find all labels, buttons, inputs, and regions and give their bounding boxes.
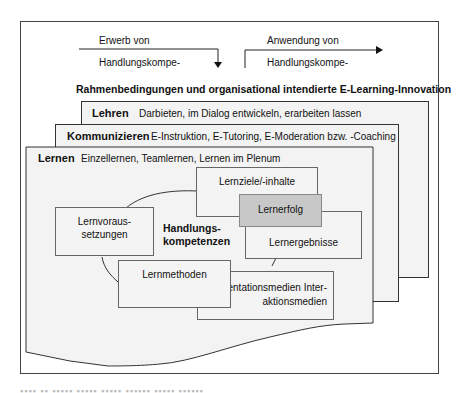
box-lernerfolg: Lernerfolg — [239, 194, 322, 227]
box-lernvoraus-line1: Lernvoraus- — [56, 215, 153, 228]
arrow-down-icon — [214, 62, 222, 68]
arrow-right-icon — [376, 46, 383, 54]
box-lernvoraus-line2: setzungen — [56, 228, 153, 241]
center-label: Handlungs- kompetenzen — [163, 222, 213, 248]
box-lernmethoden: Lernmethoden — [118, 260, 231, 308]
center-label-line1: Handlungs- — [163, 222, 213, 235]
box-lernvoraussetzungen: Lernvoraus- setzungen — [55, 207, 154, 256]
center-label-line2: kompetenzen — [163, 235, 213, 248]
caption-remnant: ▪▪▪▪ ▪▪ ▪▪▪▪▪ ▪▪▪▪▪ ▪▪▪▪▪ ▪▪▪▪▪▪ ▪▪▪▪▪ ▪… — [20, 386, 204, 393]
